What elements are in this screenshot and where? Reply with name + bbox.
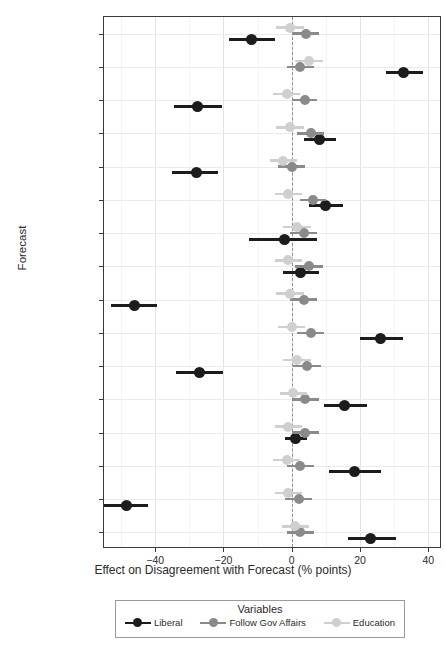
estimate-point: [304, 261, 314, 271]
estimate-point: [121, 500, 132, 511]
y-axis-tick: [99, 34, 104, 35]
legend: Variables LiberalFollow Gov AffairsEduca…: [115, 600, 405, 638]
estimate-point: [192, 101, 203, 112]
estimate-point: [283, 422, 293, 432]
legend-marker-icon: [200, 617, 226, 628]
estimate-point: [304, 56, 314, 66]
gridline-horizontal: [104, 499, 440, 500]
estimate-point: [306, 328, 316, 338]
gridline-horizontal: [104, 532, 440, 533]
estimate-point: [278, 156, 288, 166]
estimate-point: [194, 367, 205, 378]
estimate-point: [339, 400, 350, 411]
estimate-point: [375, 333, 386, 344]
estimate-point: [287, 162, 297, 172]
gridline-vertical-minor: [394, 17, 395, 547]
y-axis-title: Forecast: [16, 208, 28, 288]
gridline-vertical: [223, 17, 224, 547]
estimate-point: [279, 234, 290, 245]
gridline-horizontal: [104, 167, 440, 168]
legend-item[interactable]: Follow Gov Affairs: [200, 617, 305, 628]
y-axis-tick: [99, 366, 104, 367]
y-axis-tick: [99, 433, 104, 434]
estimate-point: [285, 122, 295, 132]
estimate-point: [301, 29, 311, 39]
estimate-point: [288, 388, 298, 398]
zero-reference-line: [292, 17, 293, 547]
gridline-vertical-minor: [258, 17, 259, 547]
gridline-horizontal: [104, 34, 440, 35]
gridline-vertical: [428, 17, 429, 547]
legend-items: LiberalFollow Gov AffairsEducation: [116, 617, 404, 628]
legend-item-label: Liberal: [154, 617, 183, 628]
gridline-vertical-minor: [326, 17, 327, 547]
gridline-horizontal: [104, 399, 440, 400]
chart-root: Forecast War & Peace 2War & Peace 1Terro…: [0, 0, 446, 646]
estimate-point: [300, 95, 310, 105]
estimate-point: [282, 89, 292, 99]
legend-item-label: Follow Gov Affairs: [229, 617, 305, 628]
estimate-point: [191, 167, 202, 178]
legend-marker-icon: [324, 617, 350, 628]
gridline-horizontal: [104, 200, 440, 201]
estimate-point: [285, 289, 295, 299]
gridline-horizontal: [104, 233, 440, 234]
y-axis-tick: [99, 167, 104, 168]
legend-item-label: Education: [353, 617, 395, 628]
gridline-horizontal: [104, 67, 440, 68]
gridline-vertical-minor: [189, 17, 190, 547]
estimate-point: [129, 300, 140, 311]
legend-item[interactable]: Liberal: [125, 617, 183, 628]
y-axis-tick: [99, 499, 104, 500]
estimate-point: [246, 34, 257, 45]
x-axis-tick: [155, 547, 156, 552]
x-axis-tick: [223, 547, 224, 552]
y-axis-tick: [99, 133, 104, 134]
y-axis-tick: [99, 233, 104, 234]
estimate-point: [300, 394, 310, 404]
estimate-point: [282, 455, 292, 465]
estimate-point: [349, 466, 360, 477]
y-axis-tick: [99, 67, 104, 68]
legend-marker-icon: [125, 617, 151, 628]
estimate-point: [285, 23, 295, 33]
estimate-point: [320, 200, 331, 211]
estimate-point: [299, 295, 309, 305]
estimate-point: [295, 461, 305, 471]
y-axis-tick: [99, 333, 104, 334]
gridline-horizontal: [104, 433, 440, 434]
gridline-horizontal: [104, 133, 440, 134]
estimate-point: [300, 428, 310, 438]
gridline-horizontal: [104, 100, 440, 101]
estimate-point: [292, 355, 302, 365]
gridline-vertical: [360, 17, 361, 547]
gridline-vertical-minor: [121, 17, 122, 547]
x-axis-title: Effect on Disagreement with Forecast (% …: [0, 563, 446, 577]
legend-item[interactable]: Education: [324, 617, 395, 628]
estimate-point: [314, 134, 325, 145]
x-axis-tick: [292, 547, 293, 552]
estimate-point: [308, 195, 318, 205]
x-axis-tick: [428, 547, 429, 552]
y-axis-tick: [99, 466, 104, 467]
gridline-vertical: [155, 17, 156, 547]
estimate-point: [306, 128, 316, 138]
y-axis-tick: [99, 266, 104, 267]
y-axis-tick: [99, 100, 104, 101]
estimate-point: [287, 322, 297, 332]
estimate-point: [294, 494, 304, 504]
y-axis-tick: [99, 532, 104, 533]
x-axis-tick: [360, 547, 361, 552]
y-axis-tick: [99, 300, 104, 301]
gridline-horizontal: [104, 300, 440, 301]
legend-title: Variables: [116, 603, 404, 615]
estimate-point: [302, 361, 312, 371]
gridline-horizontal: [104, 366, 440, 367]
gridline-horizontal: [104, 333, 440, 334]
gridline-horizontal: [104, 466, 440, 467]
estimate-point: [398, 67, 409, 78]
y-axis-tick: [99, 200, 104, 201]
estimate-point: [365, 533, 376, 544]
estimate-point: [292, 222, 302, 232]
plot-panel: War & Peace 2War & Peace 1Terrorism 2Ter…: [103, 16, 441, 548]
